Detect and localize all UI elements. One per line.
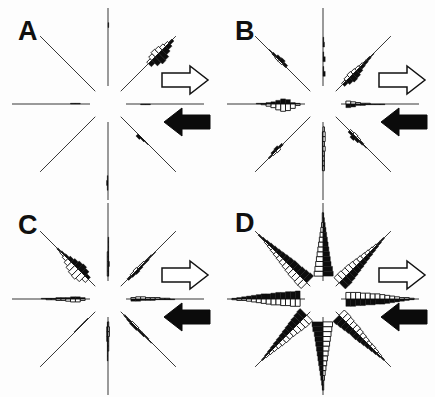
spoke-c-135 bbox=[40, 231, 95, 286]
spoke-c-270 bbox=[107, 317, 110, 395]
spoke-a-90 bbox=[108, 8, 109, 86]
spoke-b-135 bbox=[255, 36, 310, 91]
spoke-d-135 bbox=[255, 231, 313, 288]
spoke-a-270 bbox=[107, 122, 108, 200]
spoke-c-90 bbox=[107, 203, 109, 281]
open-arrow-right-d bbox=[379, 261, 425, 289]
panel-b: B bbox=[217, 0, 435, 199]
panel-a: A bbox=[0, 0, 218, 199]
spoke-a-135 bbox=[40, 36, 95, 91]
spoke-b-270 bbox=[322, 122, 325, 200]
solid-arrow-left-c bbox=[164, 303, 210, 331]
spoke-a-225 bbox=[40, 117, 95, 172]
spoke-d-225 bbox=[255, 308, 312, 366]
panel-d: D bbox=[217, 198, 435, 397]
spoke-b-225 bbox=[255, 117, 310, 172]
spoke-c-225 bbox=[40, 312, 95, 367]
solid-arrow-left-a bbox=[164, 108, 210, 136]
solid-arrow-left-b bbox=[381, 108, 427, 136]
panel-c: C bbox=[0, 198, 218, 397]
arrow-pair-b bbox=[377, 58, 435, 144]
arrow-pair-a bbox=[160, 58, 218, 144]
solid-arrow-left-d bbox=[381, 303, 427, 331]
spoke-b-180 bbox=[227, 99, 305, 111]
spoke-d-180 bbox=[227, 291, 305, 306]
arrow-pair-d bbox=[377, 253, 435, 339]
arrow-pair-c bbox=[160, 253, 218, 339]
figure-canvas: A B bbox=[0, 0, 435, 397]
spoke-d-270 bbox=[312, 317, 332, 395]
open-arrow-right-c bbox=[162, 261, 208, 289]
open-arrow-right-a bbox=[162, 66, 208, 94]
open-arrow-right-b bbox=[379, 66, 425, 94]
spoke-c-180 bbox=[12, 297, 90, 302]
spoke-a-180 bbox=[12, 103, 90, 104]
spoke-d-90 bbox=[314, 203, 333, 281]
spoke-b-90 bbox=[323, 8, 325, 86]
